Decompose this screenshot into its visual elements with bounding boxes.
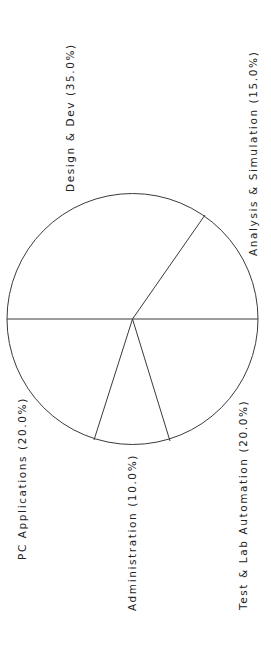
slice-divider-design-analysis <box>133 215 206 319</box>
slice-label-pc-applications: PC Applications (20.0%) <box>16 397 28 560</box>
slice-label-design-dev: Design & Dev (35.0%) <box>64 43 76 192</box>
pie-chart: Design & Dev (35.0%) Analysis & Simulati… <box>0 0 271 650</box>
slice-divider-pc-admin <box>94 319 133 440</box>
slice-label-test-lab-automation: Test & Lab Automation (20.0%) <box>237 400 249 611</box>
slice-divider-admin-testlab <box>133 319 171 441</box>
slice-label-analysis-simulation: Analysis & Simulation (15.0%) <box>247 51 259 256</box>
slice-label-administration: Administration (10.0%) <box>126 454 138 611</box>
